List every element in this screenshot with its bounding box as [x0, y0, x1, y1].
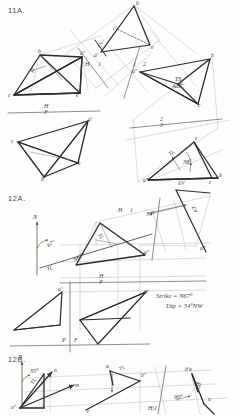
- fold-label-1-11a1: 1: [98, 62, 101, 68]
- fold-label-p-12a: P: [62, 338, 66, 344]
- right-angle-90: 90°: [174, 394, 182, 400]
- problem-label-11a: 11A.: [8, 6, 25, 15]
- triangle-11a-aux1: [101, 6, 150, 52]
- construction-lines-12a: [60, 196, 210, 330]
- fold-f-12a2: F: [99, 279, 103, 285]
- vertex-label-n2-12b: n: [208, 396, 211, 402]
- vertex-label-a-dip: a‴: [143, 177, 148, 183]
- triangle-12a-front-left: [14, 292, 62, 330]
- vertex-label-b-aux: b: [136, 0, 139, 6]
- vertex-label-c-front: c: [11, 138, 13, 144]
- fold-3-11a3: 3: [160, 122, 163, 128]
- fold-label-h-12a: H: [118, 208, 122, 214]
- lines-12b-mid-view: [86, 371, 140, 410]
- fold-line-h1-12a: [152, 198, 160, 260]
- vertex-label-a-ts: a″: [132, 68, 137, 74]
- fold-label-1-11a2: 1: [133, 62, 136, 68]
- vertex-label-b-top: b: [38, 48, 41, 54]
- dip-angle-38: 38°: [183, 159, 191, 165]
- fold-1-12b: 1: [154, 405, 157, 411]
- vertex-label-a-12a-top: a″: [144, 249, 149, 255]
- fold-label-1-12a: 1: [130, 208, 133, 214]
- fold-label-2-11a2: 2: [143, 62, 146, 68]
- vertex-label-b-12b: b″: [141, 372, 146, 378]
- vertex-label-a-aux: a′: [94, 52, 98, 58]
- vertex-label-a-12a-prof: aᵖ: [144, 288, 148, 294]
- vertex-label-e-dip: e: [195, 135, 197, 141]
- worksheet-sheet: 11A. b c′ e a′ EV c b a″ e TL c a′ e b a…: [0, 0, 240, 417]
- vertex-label-n-12b: n: [54, 367, 57, 373]
- north-label-12a: N: [33, 213, 37, 220]
- fold-label-hf-12a: H F: [99, 274, 103, 285]
- vertex-label-c-aux: c′: [113, 25, 117, 31]
- true-shape-label-11a: TS ABC: [172, 76, 184, 89]
- triangle-11a-front-view: [18, 121, 88, 177]
- vertex-label-bo-12b: b′o: [185, 366, 192, 372]
- vertex-label-o-12b: o″: [11, 404, 16, 410]
- result-strike: Strike = N67°: [156, 292, 193, 299]
- lines-12b-right-view: [192, 374, 214, 414]
- fold-label-h-11a1: H: [85, 62, 89, 68]
- vertex-label-a-12a-aux: a‴: [200, 245, 205, 251]
- bearing-angle-35: 35°: [30, 368, 38, 374]
- triangle-12a-front-right: [80, 292, 146, 344]
- vertex-label-a-top: a″: [80, 50, 85, 56]
- fold-line-h1-12b: [158, 366, 166, 414]
- vertex-label-c-top: c: [8, 92, 10, 98]
- vertex-label-b-front: b: [41, 176, 44, 182]
- problem-label-12b: 12B.: [8, 355, 26, 364]
- fold-label-f-12a: F: [74, 338, 78, 344]
- edge-view-12a: [176, 190, 210, 252]
- result-dip: Dip = 34°NW: [166, 302, 203, 309]
- north-label-12b: N: [18, 353, 22, 360]
- vertex-label-e-top: e: [76, 92, 78, 98]
- edge-view-label-11a-dip: EV: [178, 180, 185, 186]
- fold-f-11a: F: [44, 109, 48, 115]
- vertex-label-a-front: a′: [88, 116, 92, 122]
- vertex-label-b-ts: b: [211, 52, 214, 58]
- fold-line-23-11a: [130, 119, 222, 128]
- problem-label-12a: 12A.: [8, 194, 26, 203]
- vertex-label-a-12b: a: [106, 363, 109, 369]
- fold-line-hf-12a: [60, 281, 206, 283]
- fold-line-hf-11a: [8, 111, 100, 113]
- vertex-label-e-aux: e: [151, 44, 153, 50]
- vertex-label-c-ts: c: [198, 102, 200, 108]
- fold-label-h1-12b: H|1: [148, 406, 157, 412]
- vertex-label-a-12a-front: a′: [58, 286, 62, 292]
- vertex-label-m-12b: m: [75, 382, 79, 388]
- vertex-label-b-dip: b: [219, 172, 222, 178]
- vertex-label-c-12b: c: [87, 408, 89, 414]
- plane-name-abc: ABC: [172, 82, 184, 89]
- fold-label-23-11a: 2 3: [160, 117, 163, 128]
- dip-angle-34: 34°: [146, 211, 154, 217]
- vertex-label-e-front: e: [78, 160, 80, 166]
- vertex-label-c-dip: c: [209, 179, 211, 185]
- triangle-11a-top-view: [14, 55, 82, 95]
- fold-label-hf-11a: H F: [44, 104, 48, 115]
